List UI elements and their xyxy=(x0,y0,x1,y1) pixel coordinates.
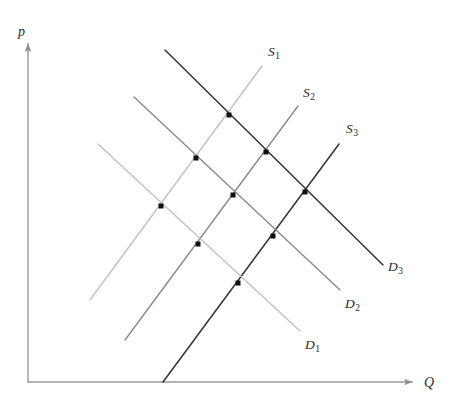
curve-label-subscript: 1 xyxy=(275,51,280,61)
curves-group xyxy=(90,50,383,382)
equilibrium-point-s3d1 xyxy=(236,281,241,286)
curve-d2 xyxy=(134,97,340,290)
axes-group xyxy=(28,44,412,382)
curve-label-d2: D2 xyxy=(345,296,360,312)
curve-label-base: D xyxy=(305,337,315,352)
equilibrium-point-s1d3 xyxy=(227,113,232,118)
axis-label-price: p xyxy=(18,24,25,40)
curve-label-subscript: 3 xyxy=(398,266,403,276)
curve-label-s1: S1 xyxy=(268,44,280,60)
equilibrium-point-s1d2 xyxy=(194,156,199,161)
equilibrium-points-group xyxy=(159,113,308,286)
curve-label-d1: D1 xyxy=(305,337,320,353)
curve-label-base: D xyxy=(345,296,355,311)
axis-label-quantity: Q xyxy=(424,375,434,391)
curve-label-s2: S2 xyxy=(303,85,315,101)
equilibrium-point-s3d3 xyxy=(303,190,308,195)
equilibrium-point-s2d3 xyxy=(264,150,269,155)
equilibrium-point-s1d1 xyxy=(159,204,164,209)
plot-canvas xyxy=(0,0,456,412)
curve-label-d3: D3 xyxy=(388,259,403,275)
equilibrium-point-s2d2 xyxy=(231,193,236,198)
curve-label-s3: S3 xyxy=(346,121,358,137)
curve-label-base: S xyxy=(268,44,275,59)
curve-label-subscript: 2 xyxy=(310,92,315,102)
curve-label-base: D xyxy=(388,259,398,274)
curve-s1 xyxy=(90,66,262,300)
curve-label-subscript: 3 xyxy=(353,128,358,138)
equilibrium-point-s2d1 xyxy=(196,242,201,247)
curve-label-subscript: 2 xyxy=(355,303,360,313)
supply-demand-figure: p Q S1S2S3D1D2D3 xyxy=(0,0,456,412)
curve-label-base: S xyxy=(346,121,353,136)
curve-label-base: S xyxy=(303,85,310,100)
curve-label-subscript: 1 xyxy=(315,344,320,354)
equilibrium-point-s3d2 xyxy=(271,234,276,239)
